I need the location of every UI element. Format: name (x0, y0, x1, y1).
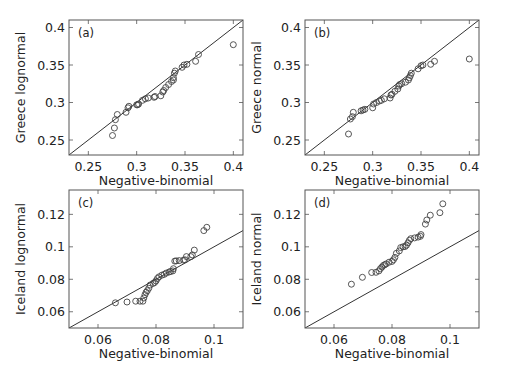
y-tick-label: 0.4 (281, 20, 301, 35)
y-axis-label: Greece normal (249, 41, 264, 133)
y-tick-label: 0.12 (273, 207, 301, 222)
y-tick-label: 0.35 (273, 58, 301, 73)
data-point (437, 210, 443, 216)
data-point (111, 125, 117, 131)
y-tick-label: 0.06 (37, 304, 65, 319)
y-tick-label: 0.25 (37, 133, 65, 148)
y-tick-label: 0.06 (273, 304, 301, 319)
data-points (112, 224, 209, 305)
y-axis-label: Iceland normal (249, 212, 264, 305)
y-tick-label: 0.35 (37, 58, 65, 73)
x-axis-label: Negative-binomial (99, 346, 213, 361)
x-tick-label: 0.06 (84, 332, 112, 347)
panel-label: (b) (314, 26, 330, 40)
x-tick-label: 0.1 (204, 332, 224, 347)
y-axis-label: Iceland lognormal (13, 203, 28, 315)
data-point (359, 274, 365, 280)
panel-d-iceland-normal: 0.060.080.10.060.080.10.12(d)Negative-bi… (249, 190, 479, 361)
data-point (440, 201, 446, 207)
y-tick-label: 0.25 (273, 133, 301, 148)
data-point (193, 58, 199, 64)
data-point (114, 112, 120, 118)
x-tick-label: 0.06 (320, 332, 348, 347)
reference-line-y-equals-x (305, 20, 479, 155)
panel-c-iceland-lognormal: 0.060.080.10.060.080.10.12(c)Negative-bi… (13, 190, 243, 361)
x-tick-label: 0.3 (127, 159, 147, 174)
y-tick-label: 0.08 (37, 272, 65, 287)
x-tick-label: 0.3 (363, 159, 383, 174)
panel-a-greece-lognormal: 0.250.30.350.40.250.30.350.4(a)Negative-… (13, 20, 243, 188)
data-point (124, 299, 130, 305)
x-tick-label: 0.35 (407, 159, 435, 174)
x-tick-label: 0.25 (310, 159, 338, 174)
y-tick-label: 0.4 (45, 20, 65, 35)
y-tick-label: 0.1 (45, 239, 65, 254)
data-point (350, 109, 356, 115)
x-tick-label: 0.25 (74, 159, 102, 174)
data-point (466, 56, 472, 62)
y-tick-label: 0.3 (281, 95, 301, 110)
x-tick-label: 0.1 (440, 332, 460, 347)
x-tick-label: 0.08 (142, 332, 170, 347)
data-point (422, 221, 428, 227)
x-tick-label: 0.4 (223, 159, 243, 174)
reference-line-y-equals-x (69, 231, 243, 328)
data-point (188, 254, 194, 260)
y-axis-label: Greece lognormal (13, 32, 28, 143)
data-point (346, 131, 352, 137)
y-tick-label: 0.1 (281, 239, 301, 254)
y-tick-label: 0.3 (45, 95, 65, 110)
data-point (110, 133, 116, 139)
data-points (346, 56, 473, 137)
figure: 0.250.30.350.40.250.30.350.4(a)Negative-… (0, 0, 505, 373)
reference-line-y-equals-x (305, 231, 479, 328)
data-point (427, 212, 433, 218)
x-tick-label: 0.08 (378, 332, 406, 347)
data-points (110, 42, 237, 139)
panel-label: (c) (78, 196, 93, 210)
y-tick-label: 0.12 (37, 207, 65, 222)
x-tick-label: 0.35 (171, 159, 199, 174)
reference-line-y-equals-x (69, 20, 243, 155)
panel-label: (a) (78, 26, 94, 40)
panel-label: (d) (314, 196, 330, 210)
x-axis-label: Negative-binomial (335, 173, 449, 188)
data-point (348, 281, 354, 287)
data-points (348, 201, 445, 287)
y-tick-label: 0.08 (273, 272, 301, 287)
panel-b-greece-normal: 0.250.30.350.40.250.30.350.4(b)Negative-… (249, 20, 479, 188)
x-axis-label: Negative-binomial (99, 173, 213, 188)
data-point (230, 42, 236, 48)
axes-frame (69, 190, 243, 328)
x-tick-label: 0.4 (459, 159, 479, 174)
x-axis-label: Negative-binomial (335, 346, 449, 361)
